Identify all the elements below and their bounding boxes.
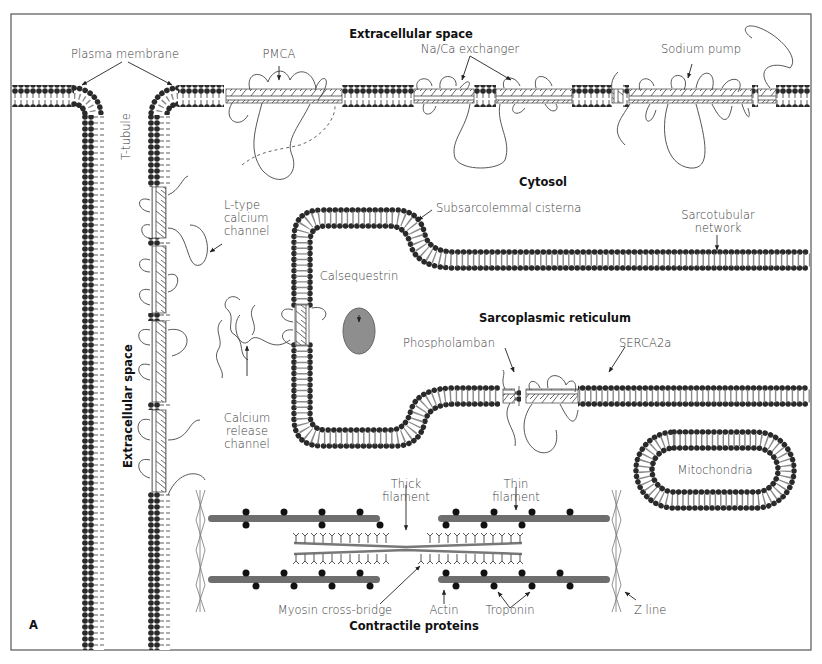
serca2a-protein	[503, 370, 578, 453]
thin-filament-lower-right	[438, 576, 610, 583]
thick-filament-label: Thick filament	[382, 478, 430, 504]
z-line-right	[612, 490, 621, 612]
sarcoplasmic-reticulum-label: Sarcoplasmic reticulum	[479, 312, 631, 325]
leader-lines	[82, 56, 717, 608]
myosin-heads-lower	[293, 554, 523, 564]
pmca-protein	[226, 71, 342, 179]
sarcomere	[196, 490, 621, 612]
l-type-calcium-channel	[138, 176, 207, 495]
plasma-membrane-label: Plasma membrane	[71, 48, 179, 61]
myosin-cross-bridge-label: Myosin cross-bridge	[278, 604, 392, 617]
mitochondria-label: Mitochondria	[678, 464, 753, 477]
pmca-label: PMCA	[263, 48, 296, 61]
calsequestrin-label: Calsequestrin	[320, 270, 399, 283]
thin-filament-label: Thin filament	[492, 478, 540, 504]
thin-filament-upper-right	[438, 515, 610, 522]
subsarcolemmal-cisterna-label: Subsarcolemmal cisterna	[436, 202, 581, 215]
calcium-release-channel-label: Calcium release channel	[224, 412, 270, 451]
thin-filament-upper-left	[208, 515, 380, 522]
figure-frame	[11, 14, 811, 650]
troponin-label: Troponin	[486, 604, 535, 617]
figure-canvas: Extracellular space Plasma membrane PMCA…	[0, 0, 822, 664]
cytosol-label: Cytosol	[519, 176, 567, 189]
thin-filament-lower-left	[208, 576, 380, 583]
extracellular-space-left-label: Extracellular space	[122, 344, 135, 468]
l-type-calcium-channel-label: L-type calcium channel	[224, 199, 270, 238]
diagram-svg	[0, 0, 822, 664]
panel-letter: A	[29, 619, 38, 632]
calsequestrin-ellipse	[343, 308, 375, 354]
sarcotubular-network-label: Sarcotubular network	[681, 209, 755, 235]
myosin-heads-upper	[293, 533, 523, 543]
phospholamban-label: Phospholamban	[403, 337, 495, 350]
actin-label: Actin	[430, 604, 459, 617]
serca2a-label: SERCA2a	[619, 337, 671, 350]
sodium-pump-label: Sodium pump	[661, 43, 741, 56]
thick-filament-lower	[294, 550, 522, 554]
na-ca-exchanger-label: Na/Ca exchanger	[421, 43, 519, 56]
contractile-proteins-label: Contractile proteins	[349, 620, 479, 633]
z-line-left	[196, 490, 205, 612]
t-tubule-label: T-tubule	[120, 113, 133, 160]
thick-filament-upper	[294, 543, 522, 547]
extracellular-space-top-label: Extracellular space	[349, 28, 473, 41]
z-line-label: Z line	[634, 604, 666, 617]
